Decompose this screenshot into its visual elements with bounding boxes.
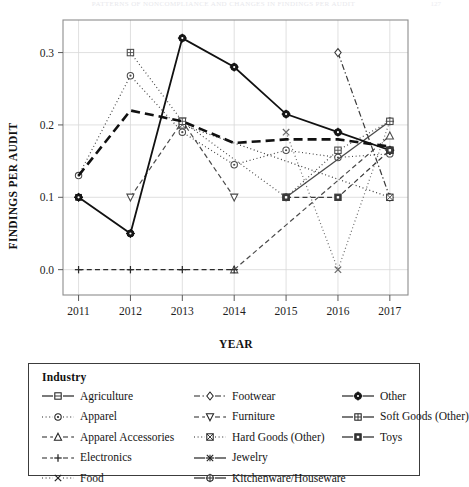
legend-item-furniture[interactable]: Furniture	[193, 407, 341, 428]
series-line	[234, 136, 390, 270]
legend-key	[193, 410, 227, 424]
legend-item-label: Other	[380, 391, 406, 403]
legend-key	[193, 471, 227, 485]
x-axis-title: YEAR	[219, 338, 253, 350]
legend-item-apparel[interactable]: Apparel	[41, 407, 193, 428]
legend-item-label: Agriculture	[80, 391, 133, 403]
legend-item-agriculture[interactable]: Agriculture	[41, 386, 193, 407]
x-tick-label: 2012	[119, 305, 142, 317]
data-point	[285, 149, 287, 151]
data-point	[337, 131, 339, 133]
cross-icon	[41, 471, 75, 485]
data-point	[337, 196, 339, 198]
legend-item-label: Furniture	[232, 411, 275, 423]
x-tick-label: 2017	[378, 305, 401, 317]
legend-key	[41, 410, 75, 424]
legend-item-label: Jewelry	[232, 452, 268, 464]
data-point	[206, 414, 213, 421]
data-point	[181, 37, 183, 39]
legend-key	[341, 389, 375, 403]
data-point	[129, 75, 131, 77]
triangle-down-icon	[193, 410, 227, 424]
legend-item-label: Hard Goods (Other)	[232, 432, 325, 444]
legend-key	[41, 451, 75, 465]
running-head: PATTERNS OF NONCOMPLIANCE AND CHANGES IN…	[0, 0, 447, 13]
legend-item-hard-goods-other[interactable]: Hard Goods (Other)	[193, 427, 341, 448]
data-point	[357, 436, 359, 438]
legend-item-kitchenware-houseware[interactable]: Kitchenware/Houseware	[193, 468, 341, 487]
legend-item-label: Footwear	[232, 391, 275, 403]
legend-spacer	[341, 448, 433, 469]
data-point	[389, 149, 391, 151]
y-axis-title: FINDINGS PER AUDIT	[7, 123, 19, 250]
legend-item-electronics[interactable]: Electronics	[41, 448, 193, 469]
legend-item-toys[interactable]: Toys	[341, 427, 433, 448]
asterisk-icon	[193, 451, 227, 465]
legend-item-footwear[interactable]: Footwear	[193, 386, 341, 407]
legend-key	[341, 410, 375, 424]
data-point	[285, 113, 287, 115]
legend-key	[193, 430, 227, 444]
legend-spacer	[341, 468, 433, 487]
legend-item-label: Apparel Accessories	[80, 432, 174, 444]
x-tick-label: 2013	[171, 305, 194, 317]
y-tick-label: 0.3	[40, 47, 55, 59]
legend-key	[41, 471, 75, 485]
series-apparel-accessories	[231, 132, 394, 273]
data-point	[233, 66, 235, 68]
x-tick-label: 2015	[275, 305, 298, 317]
y-axis-ticks: 0.00.10.20.3	[40, 47, 63, 276]
legend-title: Industry	[42, 371, 419, 383]
y-tick-label: 0.2	[40, 119, 55, 131]
legend-key	[41, 430, 75, 444]
legend-item-label: Apparel	[80, 411, 117, 423]
chart-frame	[63, 20, 408, 295]
diamond-open-icon	[193, 389, 227, 403]
y-tick-label: 0.1	[40, 191, 55, 203]
legend-key	[193, 451, 227, 465]
x-tick-label: 2014	[223, 305, 246, 317]
legend-item-label: Kitchenware/Houseware	[232, 473, 346, 485]
legend-key	[341, 430, 375, 444]
circle-plus-filled-icon	[341, 389, 375, 403]
legend-item-jewelry[interactable]: Jewelry	[193, 448, 341, 469]
legend-item-apparel-accessories[interactable]: Apparel Accessories	[41, 427, 193, 448]
triangle-open-icon	[41, 430, 75, 444]
data-point	[207, 392, 213, 400]
data-point	[335, 49, 341, 57]
data-point	[285, 196, 287, 198]
data-point	[77, 196, 79, 198]
legend-item-food[interactable]: Food	[41, 468, 193, 487]
line-chart: 0.00.10.20.3 201120122013201420152016201…	[0, 14, 447, 356]
data-point	[129, 232, 131, 234]
x-tick-label: 2016	[326, 305, 349, 317]
plus-icon	[41, 451, 75, 465]
square-filled-icon	[341, 430, 375, 444]
page-number: 127	[431, 0, 442, 8]
legend-key	[41, 389, 75, 403]
legend-grid: AgricultureFootwearOtherApparelFurniture…	[41, 386, 419, 487]
y-tick-label: 0.0	[40, 264, 55, 276]
data-point	[357, 395, 359, 397]
series-electronics	[75, 266, 238, 273]
square-grid-icon	[341, 410, 375, 424]
legend-item-soft-goods-other[interactable]: Soft Goods (Other)	[341, 407, 433, 428]
x-axis-ticks: 2011201220132014201520162017	[67, 295, 401, 317]
data-point	[54, 433, 61, 440]
data-point	[57, 416, 59, 418]
chart-legend: Industry AgricultureFootwearOtherApparel…	[28, 363, 420, 476]
data-point	[233, 164, 235, 166]
chart-figure: 0.00.10.20.3 201120122013201420152016201…	[0, 14, 447, 356]
legend-item-label: Electronics	[80, 452, 132, 464]
legend-item-label: Soft Goods (Other)	[380, 411, 469, 423]
data-point	[181, 131, 183, 133]
x-tick-label: 2011	[67, 305, 90, 317]
legend-item-label: Food	[80, 473, 104, 485]
legend-item-label: Toys	[380, 432, 402, 444]
legend-key	[193, 389, 227, 403]
chart-gridlines	[63, 20, 408, 295]
legend-item-other[interactable]: Other	[341, 386, 433, 407]
data-point	[386, 132, 393, 139]
square-open-icon	[41, 389, 75, 403]
circle-dot-icon	[41, 410, 75, 424]
